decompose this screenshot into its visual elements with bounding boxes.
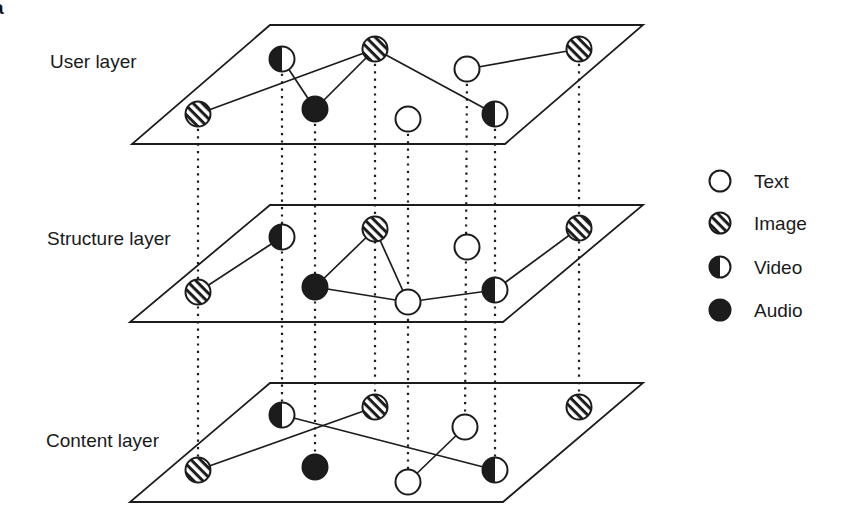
node-text — [396, 107, 421, 132]
node-audio — [303, 455, 328, 480]
layer-planes — [130, 25, 643, 502]
user-layer-label: User layer — [50, 52, 137, 71]
node-text — [396, 470, 421, 495]
node-text — [453, 415, 478, 440]
text-node-icon — [707, 168, 733, 194]
structure-layer-label: Structure layer — [47, 229, 171, 248]
node-text — [455, 57, 480, 82]
node-audio — [303, 97, 328, 122]
content-layer-label: Content layer — [46, 431, 159, 450]
legend-item-audio: Audio — [707, 297, 803, 323]
node-text — [455, 235, 480, 260]
legend-item-video: Video — [707, 254, 802, 280]
legend-item-text: Text — [707, 168, 789, 194]
node-audio — [303, 275, 328, 300]
legend-label-video: Video — [754, 258, 802, 277]
plane-user-layer — [132, 25, 643, 144]
node-image — [186, 102, 211, 127]
legend-label-audio: Audio — [754, 301, 803, 320]
node-text — [396, 290, 421, 315]
node-image — [186, 458, 211, 483]
node-image — [567, 37, 592, 62]
node-image — [363, 37, 388, 62]
legend-label-text: Text — [754, 172, 789, 191]
node-image — [567, 216, 592, 241]
legend-label-image: Image — [754, 214, 807, 233]
node-image — [363, 395, 388, 420]
node-image — [567, 395, 592, 420]
layered-multimedia-figure: a User layer Structure layer Content lay… — [0, 0, 846, 518]
node-image — [186, 280, 211, 305]
video-node-icon — [707, 254, 733, 280]
audio-node-icon — [707, 297, 733, 323]
image-node-icon — [707, 210, 733, 236]
node-image — [363, 217, 388, 242]
legend-item-image: Image — [707, 210, 807, 236]
